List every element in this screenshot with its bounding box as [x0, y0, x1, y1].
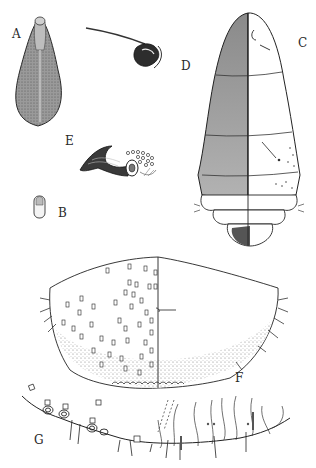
- label-b: B: [58, 207, 67, 219]
- label-c: C: [298, 37, 307, 49]
- panel-e-trumpet-seta: [80, 146, 156, 176]
- panel-c-larva: [194, 13, 304, 246]
- label-d: D: [181, 60, 191, 72]
- label-g: G: [34, 434, 44, 446]
- panel-f-plate: [40, 257, 288, 388]
- illustration-canvas: [0, 0, 316, 468]
- panel-a-egg: [16, 17, 62, 126]
- figure-plate: A B C D E F G: [0, 0, 316, 468]
- panel-d-seta: [86, 28, 161, 68]
- panel-g-margin: [22, 384, 290, 460]
- label-a: A: [12, 28, 21, 40]
- panel-b-capsule: [34, 196, 45, 218]
- label-e: E: [65, 135, 74, 147]
- label-f: F: [235, 372, 243, 384]
